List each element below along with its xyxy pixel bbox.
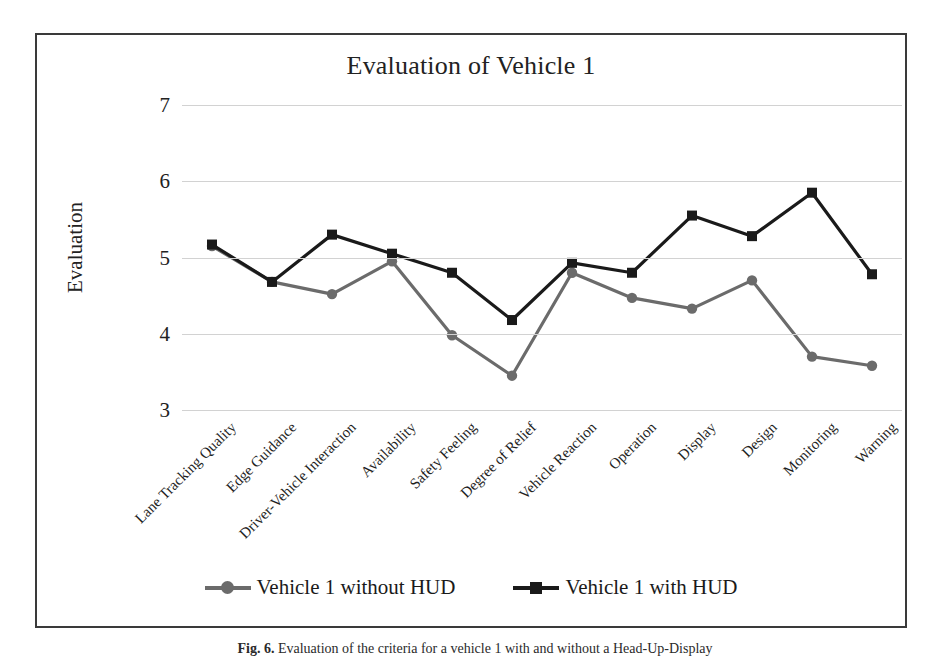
series-2 xyxy=(207,188,877,325)
series-line xyxy=(212,246,872,376)
series-line xyxy=(212,193,872,320)
data-point-marker xyxy=(627,293,637,303)
data-point-marker xyxy=(807,188,817,198)
figure-caption: Fig. 6. Evaluation of the criteria for a… xyxy=(60,640,890,663)
x-axis-label: Display xyxy=(675,419,720,464)
data-point-marker xyxy=(627,268,637,278)
data-point-marker xyxy=(747,275,757,285)
gridline-5 xyxy=(182,258,902,259)
legend-label: Vehicle 1 with HUD xyxy=(565,575,737,600)
data-point-marker xyxy=(687,211,697,221)
gridline-6 xyxy=(182,181,902,182)
plot-area: 34567 xyxy=(182,105,902,410)
legend-item-2[interactable]: Vehicle 1 with HUD xyxy=(513,575,737,600)
legend-marker-square-icon xyxy=(530,582,542,594)
data-point-marker xyxy=(447,330,457,340)
data-point-marker xyxy=(867,269,877,279)
legend-swatch xyxy=(513,580,559,596)
data-point-marker xyxy=(327,230,337,240)
data-point-marker xyxy=(207,240,217,250)
data-point-marker xyxy=(687,303,697,313)
plot-inner: 34567 xyxy=(182,105,902,410)
y-tick-label: 4 xyxy=(160,321,171,346)
x-axis-label: Warning xyxy=(852,419,900,467)
y-axis-title: Evaluation xyxy=(63,178,88,318)
legend-swatch xyxy=(205,580,251,596)
series-1 xyxy=(207,241,877,381)
x-axis-label: Availability xyxy=(358,419,420,481)
x-axis-label: Operation xyxy=(606,419,660,473)
data-point-marker xyxy=(507,370,517,380)
figure-caption-text: Evaluation of the criteria for a vehicle… xyxy=(278,641,713,656)
data-point-marker xyxy=(567,258,577,268)
data-point-marker xyxy=(267,277,277,287)
figure-caption-label: Fig. 6. xyxy=(237,641,274,656)
data-point-marker xyxy=(747,231,757,241)
legend-item-1[interactable]: Vehicle 1 without HUD xyxy=(205,575,456,600)
data-point-marker xyxy=(507,315,517,325)
x-axis-label: Driver-Vehicle Interaction xyxy=(237,419,360,542)
gridline-7 xyxy=(182,105,902,106)
x-axis-label: Design xyxy=(738,419,780,461)
y-tick-label: 7 xyxy=(160,93,171,118)
x-axis-label: Monitoring xyxy=(780,419,840,479)
gridline-4 xyxy=(182,334,902,335)
chart-title: Evaluation of Vehicle 1 xyxy=(37,51,905,81)
gridline-3 xyxy=(182,410,902,411)
data-point-marker xyxy=(867,361,877,371)
y-tick-label: 6 xyxy=(160,169,171,194)
data-point-marker xyxy=(327,289,337,299)
y-tick-label: 3 xyxy=(160,398,171,423)
x-axis-label: Lane Tracking Quality xyxy=(132,419,240,527)
y-tick-label: 5 xyxy=(160,245,171,270)
data-point-marker xyxy=(447,268,457,278)
x-axis-category-labels: Lane Tracking QualityEdge GuidanceDriver… xyxy=(182,413,902,593)
figure-frame: Evaluation of Vehicle 1 Evaluation 34567… xyxy=(35,33,907,628)
chart-legend: Vehicle 1 without HUDVehicle 1 with HUD xyxy=(37,575,905,600)
legend-label: Vehicle 1 without HUD xyxy=(257,575,456,600)
data-point-marker xyxy=(807,351,817,361)
legend-marker-circle-icon xyxy=(221,581,234,594)
data-point-marker xyxy=(567,268,577,278)
